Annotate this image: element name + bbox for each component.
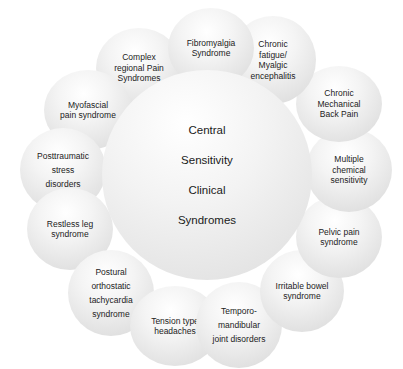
node-label: Multiple chemical sensitivity (331, 154, 368, 186)
node-label: Tension type headaches (151, 316, 199, 337)
node-label: Fibromyalgia Syndrome (187, 38, 236, 59)
csc-diagram: Complex regional Pain Syndromes Myofasci… (0, 0, 403, 369)
node-label: Posttraumatic stress disorders (37, 149, 89, 191)
center-label: Central Sensitivity Clinical Syndromes (178, 115, 236, 235)
node-label: Temporo- mandibular joint disorders (213, 304, 266, 346)
node-label: Chronic fatigue/ Myalgic encephalitis (251, 39, 296, 81)
node-label: Complex regional Pain Syndromes (114, 52, 164, 84)
node-label: Chronic Mechanical Back Pain (318, 88, 361, 120)
center-node: Central Sensitivity Clinical Syndromes (102, 70, 312, 280)
node-label: Irritable bowel syndrome (276, 281, 329, 302)
node-label: Pelvic pain syndrome (318, 227, 359, 248)
node-label: Myofascial pain syndrome (60, 100, 116, 121)
node-label: Restless leg syndrome (47, 219, 93, 240)
node-label: Postural orthostatic tachycardia syndrom… (89, 265, 132, 321)
